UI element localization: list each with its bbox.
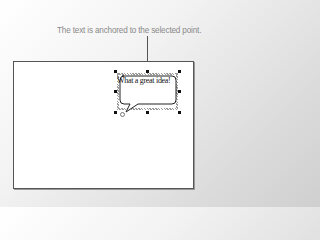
resize-handle-e[interactable] xyxy=(178,90,181,93)
resize-handle-ne[interactable] xyxy=(178,70,181,73)
resize-handle-nw[interactable] xyxy=(114,70,117,73)
resize-handle-s[interactable] xyxy=(146,111,149,114)
resize-handle-n[interactable] xyxy=(146,70,149,73)
resize-handle-se[interactable] xyxy=(178,111,181,114)
resize-handle-sw[interactable] xyxy=(114,111,117,114)
callout-text[interactable]: What a great idea! xyxy=(117,76,170,85)
caption-text: The text is anchored to the selected poi… xyxy=(57,24,201,35)
anchor-point-icon[interactable] xyxy=(120,112,125,117)
resize-handle-w[interactable] xyxy=(114,90,117,93)
